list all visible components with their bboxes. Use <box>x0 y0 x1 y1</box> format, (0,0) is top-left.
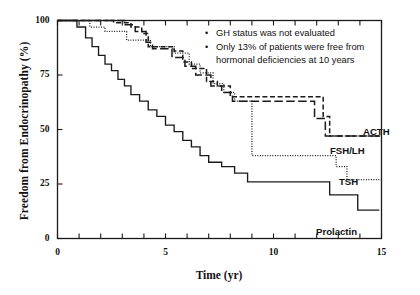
annotation-text-2-line2: hormonal deficiencies at 10 years <box>216 55 355 65</box>
curve-label-fshlh: FSH/LH <box>330 145 365 156</box>
bullet-icon: • <box>205 41 216 54</box>
curve-label-prolactin: Prolactin <box>316 226 357 237</box>
y-tick-label-25: 25 <box>22 178 50 188</box>
annotation-text-2-line1: Only 13% of patients were free from <box>216 42 364 52</box>
annotation-item-2: • Only 13% of patients were free from ho… <box>205 41 395 67</box>
chart-annotation-block: • GH status was not evaluated • Only 13%… <box>205 27 395 69</box>
annotation-text-2: Only 13% of patients were free from horm… <box>216 41 395 67</box>
annotation-item-1: • GH status was not evaluated <box>205 27 395 40</box>
chart-figure: Freedom from Endocrinopathy (%) Time (yr… <box>0 0 420 295</box>
y-tick-label-100: 100 <box>22 15 50 25</box>
x-tick-label-5: 5 <box>154 247 178 257</box>
curve-label-tsh: TSH <box>339 176 358 187</box>
y-tick-label-0: 0 <box>22 233 50 243</box>
x-axis-title: Time (yr) <box>57 269 381 281</box>
x-tick-label-10: 10 <box>262 247 286 257</box>
x-tick-label-0: 0 <box>46 247 70 257</box>
curve-label-acth: ACTH <box>363 126 390 137</box>
y-tick-label-50: 50 <box>22 124 50 134</box>
bullet-icon: • <box>205 27 216 40</box>
y-tick-label-75: 75 <box>22 69 50 79</box>
x-tick-label-15: 15 <box>370 247 394 257</box>
annotation-text-1: GH status was not evaluated <box>216 27 395 40</box>
